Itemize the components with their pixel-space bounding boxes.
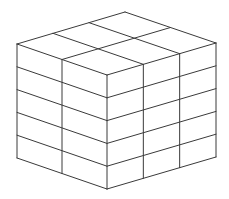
block-cuboid-drawing [0, 0, 229, 199]
top-face [17, 12, 216, 75]
right-face [107, 43, 216, 189]
cuboid-diagram: Rectangular prism made of unit blocks [0, 0, 229, 199]
left-face [17, 44, 107, 189]
